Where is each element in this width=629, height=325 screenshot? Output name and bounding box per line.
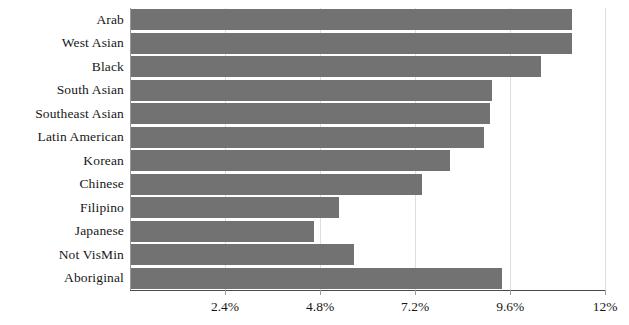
bar-southeast-asian — [131, 103, 490, 124]
x-tick-mark — [605, 290, 606, 295]
category-label-southeast-asian: Southeast Asian — [0, 107, 124, 121]
bar-latin-american — [131, 127, 484, 148]
x-tick-label: 7.2% — [401, 299, 429, 315]
bar-chinese — [131, 174, 422, 195]
x-tick-label: 12% — [593, 299, 618, 315]
x-tick-label: 9.6% — [496, 299, 524, 315]
x-tick-label: 2.4% — [211, 299, 239, 315]
x-tick-mark — [415, 290, 416, 295]
gridline — [605, 8, 606, 290]
bar-arab — [131, 9, 572, 30]
x-tick-mark — [510, 290, 511, 295]
category-label-japanese: Japanese — [0, 224, 124, 238]
x-tick-mark — [225, 290, 226, 295]
bar-aboriginal — [131, 268, 502, 289]
category-label-not-vismin: Not VisMin — [0, 248, 124, 262]
axis-baseline — [130, 290, 605, 291]
bar-filipino — [131, 197, 339, 218]
bar-west-asian — [131, 33, 572, 54]
bar-japanese — [131, 221, 314, 242]
bar-south-asian — [131, 80, 492, 101]
category-label-chinese: Chinese — [0, 177, 124, 191]
category-label-south-asian: South Asian — [0, 83, 124, 97]
category-label-filipino: Filipino — [0, 201, 124, 215]
category-label-aboriginal: Aboriginal — [0, 271, 124, 285]
bar-korean — [131, 150, 450, 171]
bar-not-vismin — [131, 244, 354, 265]
category-axis: ArabWest AsianBlackSouth AsianSoutheast … — [0, 8, 124, 290]
category-label-arab: Arab — [0, 13, 124, 27]
x-tick-label: 4.8% — [306, 299, 334, 315]
category-label-korean: Korean — [0, 154, 124, 168]
value-axis: 2.4%4.8%7.2%9.6%12% — [130, 290, 629, 325]
x-tick-mark — [320, 290, 321, 295]
category-label-black: Black — [0, 60, 124, 74]
category-label-west-asian: West Asian — [0, 36, 124, 50]
bar-chart: ArabWest AsianBlackSouth AsianSoutheast … — [0, 0, 629, 325]
plot-area — [130, 8, 629, 290]
category-label-latin-american: Latin American — [0, 130, 124, 144]
bar-black — [131, 56, 541, 77]
